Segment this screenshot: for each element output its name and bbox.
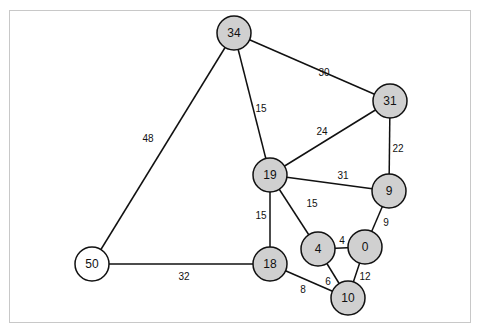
node-0: 0	[348, 230, 382, 264]
edge-19-9	[270, 175, 389, 191]
node-4: 4	[301, 232, 335, 266]
edge-31-19	[270, 101, 390, 175]
edge-weight-label: 48	[142, 133, 154, 144]
edge-weight-label: 12	[359, 271, 371, 282]
edge-weight-label: 4	[339, 235, 345, 246]
edge-weight-label: 22	[392, 143, 404, 154]
node-label: 50	[85, 257, 99, 271]
edge-weight-label: 15	[255, 210, 267, 221]
node-18: 18	[253, 247, 287, 281]
node-label: 34	[227, 26, 241, 40]
edge-weight-label: 32	[178, 271, 190, 282]
edge-weight-label: 24	[316, 126, 328, 137]
node-50: 50	[75, 247, 109, 281]
node-label: 19	[263, 168, 277, 182]
node-9: 9	[372, 174, 406, 208]
edge-weight-label: 8	[300, 284, 306, 295]
edge-34-50	[92, 33, 234, 264]
edge-weight-label: 9	[383, 217, 389, 228]
node-label: 18	[263, 257, 277, 271]
graph-diagram: 483015242231151594612832 343119904181050	[0, 0, 482, 335]
node-label: 10	[341, 291, 355, 305]
node-31: 31	[373, 84, 407, 118]
edge-weight-label: 15	[255, 103, 267, 114]
edge-weight-label: 31	[337, 170, 349, 181]
edge-weight-label: 30	[318, 67, 330, 78]
edge-34-31	[234, 33, 390, 101]
edge-weight-label: 15	[306, 198, 318, 209]
edge-weight-label: 6	[325, 276, 331, 287]
node-label: 31	[383, 94, 397, 108]
node-label: 4	[315, 242, 322, 256]
node-label: 9	[386, 184, 393, 198]
node-34: 34	[217, 16, 251, 50]
node-10: 10	[331, 281, 365, 315]
node-19: 19	[253, 158, 287, 192]
node-label: 0	[362, 240, 369, 254]
edges-layer	[92, 33, 390, 298]
